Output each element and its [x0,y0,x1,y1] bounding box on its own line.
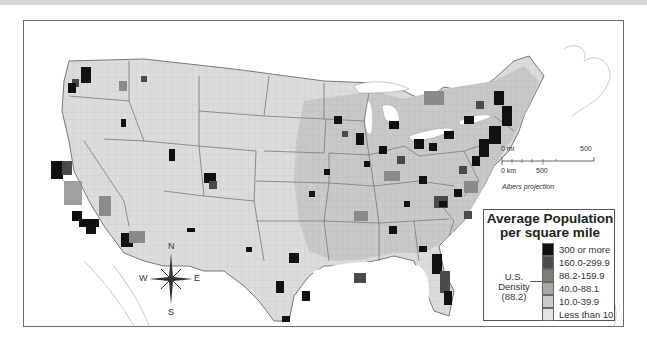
us-density-note: U.S. Density (88.2) [490,272,538,302]
legend-title-line2: per square mile [484,226,616,240]
legend-class-label: 10.0-39.9 [559,296,599,307]
us-density-value: (88.2) [490,292,538,302]
scale-km-start: 0 km [501,167,516,174]
compass-star-icon [141,249,201,309]
projection-label: Albers projection [502,183,554,190]
legend-swatch-3 [542,282,554,295]
scale-km-mid: 500 [536,167,548,174]
compass-north: N [168,241,175,251]
legend: Average Population per square mile 300 o… [483,209,615,321]
top-strip [0,0,647,5]
scale-mi-end: 500 [580,145,592,152]
us-density-label: U.S. Density [490,272,538,292]
legend-title: Average Population per square mile [484,212,616,240]
legend-swatch-4 [542,295,554,308]
scale-mi-start: 0 mi [501,145,514,152]
legend-class-label: 160.0-299.9 [559,257,610,268]
us-density-pointer [530,281,542,282]
legend-title-line1: Average Population [484,212,616,226]
legend-class-label: Less than 10 [559,309,613,320]
compass-east: E [194,273,200,283]
scale-bar: 0 mi 500 0 km 500 Albers projection [498,145,598,195]
legend-class-label: 300 or more [559,244,610,255]
legend-swatch-5 [542,308,554,321]
compass-west: W [139,273,148,283]
legend-class-label: 88.2-159.9 [559,270,604,281]
legend-swatch-1 [542,256,554,269]
compass-south: S [168,307,174,317]
legend-class-label: 40.0-88.1 [559,283,599,294]
legend-swatch-2 [542,269,554,282]
legend-swatch-0 [542,243,554,256]
compass-rose: N S W E [141,249,201,309]
